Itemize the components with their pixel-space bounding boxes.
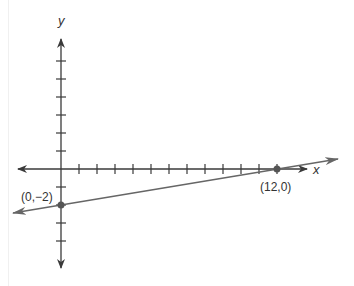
point-label-12-0: (12,0) [260,180,291,194]
point-12-0 [274,166,281,173]
y-axis-label: y [57,13,66,28]
x-axis-label: x [312,162,320,177]
point-label-0-neg2: (0,−2) [21,190,53,204]
y-axis: y [56,13,66,268]
page-edge [8,0,9,286]
point-0-neg2 [58,202,65,209]
graph-svg: x y (0,−2) (12,0) [0,0,354,286]
coordinate-plane: x y (0,−2) (12,0) [0,0,354,286]
